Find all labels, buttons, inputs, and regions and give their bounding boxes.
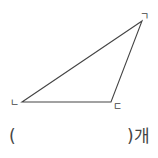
- vertex-label-nieun: ㄴ: [10, 98, 19, 108]
- vertex-label-digeut: ㄷ: [113, 102, 122, 112]
- answer-close-paren-unit: )개: [127, 128, 150, 145]
- answer-open-paren: (: [9, 128, 16, 145]
- vertex-label-giyeok: ㄱ: [140, 12, 149, 22]
- triangle-shape: [22, 21, 142, 102]
